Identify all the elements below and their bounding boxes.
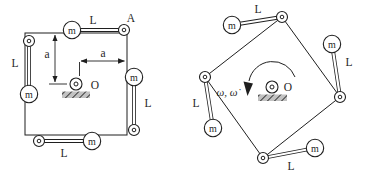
- mass-bottom: m: [83, 132, 100, 149]
- vertical-dimension: a: [44, 35, 67, 84]
- rotation-arrowhead-icon: [244, 82, 254, 97]
- mass-top: m: [223, 16, 240, 33]
- fixed-pivot-O: O: [62, 78, 99, 98]
- mass-label: m: [311, 143, 319, 154]
- pivot-joint-bottom: [258, 153, 269, 164]
- mechanism-diagram: a a L L L L: [0, 0, 366, 174]
- link-length-label: L: [192, 97, 199, 109]
- link-length-label: L: [89, 14, 96, 26]
- horizontal-dimension: a: [80, 47, 125, 76]
- rotation-arc-icon: [249, 62, 295, 81]
- link-length-label: L: [11, 57, 18, 69]
- pivot-joint-bottom-right: [129, 125, 140, 136]
- mass-label: m: [228, 20, 236, 31]
- angular-velocity-label: ω, ω̇: [216, 86, 241, 98]
- pivot-joint-top: [277, 12, 288, 23]
- link-length-label: L: [287, 160, 294, 172]
- link-length-label: L: [345, 56, 352, 68]
- mass-label: m: [25, 89, 33, 100]
- pivot-joint-top-right: [119, 25, 130, 36]
- pivot-joint-left: [200, 72, 211, 83]
- link-length-label: L: [254, 3, 261, 15]
- pivot-joint-top-left: [24, 36, 35, 47]
- ground-hatch-icon: [62, 92, 90, 99]
- mass-label: m: [88, 136, 96, 147]
- left-figure: a a L L L L: [11, 12, 151, 159]
- pivot-joint-bottom-left: [34, 136, 45, 147]
- mass-left: m: [204, 119, 221, 136]
- mass-label: m: [209, 123, 217, 134]
- right-figure: L L L L: [192, 3, 352, 172]
- dimension-label-a-horizontal: a: [100, 47, 105, 59]
- pivot-label: O: [91, 79, 99, 91]
- mass-bottom: m: [306, 139, 323, 156]
- mass-top: m: [63, 21, 80, 38]
- mass-label: m: [68, 25, 76, 36]
- mass-label: m: [328, 39, 336, 50]
- pivot-label: O: [284, 81, 292, 93]
- fixed-pivot-O: O: [258, 81, 292, 101]
- dimension-label-a-vertical: a: [44, 48, 49, 60]
- mass-right: m: [323, 35, 340, 52]
- link-length-label: L: [144, 97, 151, 109]
- pivot-joint-right: [335, 92, 346, 103]
- mass-label: m: [130, 72, 138, 83]
- mass-left: m: [20, 85, 37, 102]
- ground-hatch-icon: [258, 95, 287, 102]
- link-length-label: L: [60, 147, 67, 159]
- mass-right: m: [125, 68, 142, 85]
- corner-label-A: A: [127, 12, 136, 24]
- figure-canvas: a a L L L L: [0, 0, 366, 174]
